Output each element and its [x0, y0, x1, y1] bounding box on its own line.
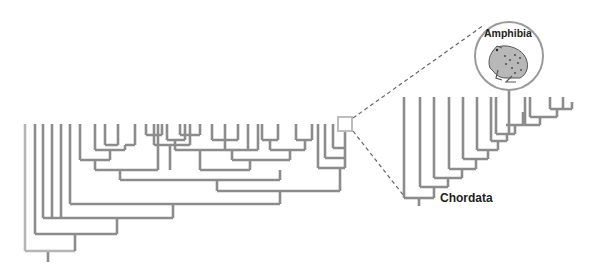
chordata-subtree	[404, 90, 572, 206]
highlight-box	[338, 117, 352, 131]
amphibia-label: Amphibia	[484, 27, 532, 39]
chordata-label: Chordata	[440, 191, 493, 205]
main-tree	[25, 124, 345, 262]
zoom-connector-lines	[353, 25, 484, 196]
phylogenetic-tree-diagram	[0, 0, 594, 271]
